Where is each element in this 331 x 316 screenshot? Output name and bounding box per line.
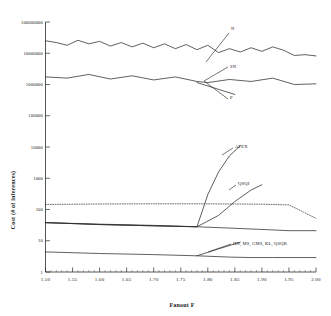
x-tick-label: 1.60 [95,277,105,282]
series-annotations: NSNPAPEXQSQIHN, MS, GMS, KL, QSQR [230,26,288,247]
leader-qsqi [229,185,236,190]
y-tick-label: 100000000 [21,20,44,25]
y-tick-label: 10000 [31,145,44,150]
series-path [46,74,317,84]
y-axis-title: Cost (# of inferences) [10,171,17,229]
x-tick-label: 1.55 [68,277,78,282]
axes [46,22,317,272]
x-tick-label: 1.95 [284,277,294,282]
x-tick-label: 1.65 [122,277,132,282]
x-tick-label: 1.90 [257,277,267,282]
y-tick-labels: 1101001000100001000001000000100000001000… [21,20,44,275]
series-path [46,40,317,56]
x-tick-label: 1.50 [41,277,51,282]
y-tick-label: 1 [41,270,44,275]
x-tick-label: 1.80 [203,277,213,282]
series-path [197,83,235,95]
line-chart: 1101001000100001000001000000100000001000… [0,0,331,316]
series-path [46,185,262,227]
y-tick-label: 1000 [33,176,43,181]
y-tick-label: 10 [38,238,43,243]
y-tick-label: 10000000 [23,51,43,56]
series-label: P [230,95,233,100]
series-label: N [231,26,235,31]
x-axis-title: Fanout F [169,302,194,308]
x-tick-label: 1.85 [230,277,240,282]
x-tick-marks [46,268,317,273]
leader-hn-group [208,244,231,252]
x-tick-label: 2.00 [311,277,321,282]
y-tick-marks [46,22,51,272]
series-label: QSQI [238,181,250,186]
leader-sn [204,67,228,81]
x-tick-labels: 1.501.551.601.651.701.751.801.851.901.95… [41,277,321,282]
series-label: HN, MS, GMS, KL, QSQR [233,241,288,247]
series-path [46,204,317,219]
y-tick-label: 100 [36,207,44,212]
chart-container: 1101001000100001000001000000100000001000… [0,0,331,316]
series-path [46,252,317,258]
series-path [46,146,241,227]
leader-n [206,33,229,62]
data-series-group [46,40,317,257]
leader-p [204,81,228,99]
y-tick-label: 1000000 [26,82,44,87]
series-label: APEX [235,144,248,149]
series-label: SN [230,64,237,69]
x-tick-label: 1.75 [176,277,186,282]
x-tick-label: 1.70 [149,277,159,282]
y-tick-label: 100000 [28,113,43,118]
